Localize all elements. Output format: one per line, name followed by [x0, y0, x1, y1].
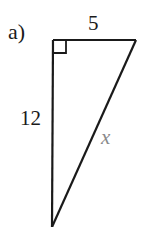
side-top-label: 5 — [88, 13, 99, 34]
right-triangle-figure: a) 5 12 x — [0, 0, 143, 227]
part-label: a) — [8, 21, 25, 43]
side-left — [52, 40, 53, 227]
side-hypotenuse — [52, 40, 136, 227]
side-left-label: 12 — [20, 108, 41, 129]
hypotenuse-label: x — [101, 127, 110, 148]
right-angle-marker-icon — [53, 40, 66, 53]
